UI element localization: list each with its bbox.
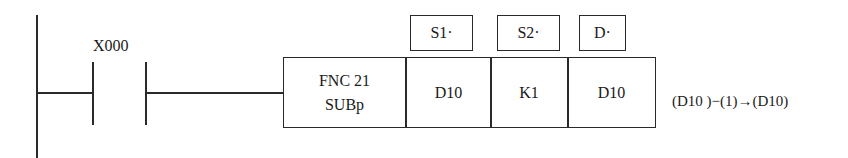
operand-header-s1-text: S1· [430, 24, 452, 42]
left-power-rail [36, 15, 38, 158]
function-cell: FNC 21 SUBp [284, 58, 405, 127]
operand-header-s2-text: S2· [517, 24, 539, 42]
operand-value-d: D10 [598, 81, 626, 104]
operand-cell-s2: K1 [491, 58, 567, 127]
function-code: FNC 21 [319, 69, 370, 92]
operand-value-s2: K1 [519, 81, 539, 104]
contact-label: X000 [93, 38, 129, 54]
operand-header-s2: S2· [497, 15, 560, 51]
contact-left-plate [92, 62, 94, 125]
operand-header-s1: S1· [410, 15, 473, 51]
rung-wire-left [37, 92, 93, 94]
equation-text: (D10 )−(1)→(D10) [672, 94, 788, 109]
operand-cell-s1: D10 [406, 58, 491, 127]
operand-header-d: D· [579, 15, 626, 51]
operand-header-d-text: D· [594, 24, 611, 42]
rung-wire-right [146, 92, 284, 94]
operand-value-s1: D10 [435, 81, 463, 104]
instruction-block: FNC 21 SUBp D10 K1 D10 [283, 57, 656, 128]
operand-cell-d: D10 [568, 58, 655, 127]
function-mnemonic: SUBp [325, 93, 364, 116]
